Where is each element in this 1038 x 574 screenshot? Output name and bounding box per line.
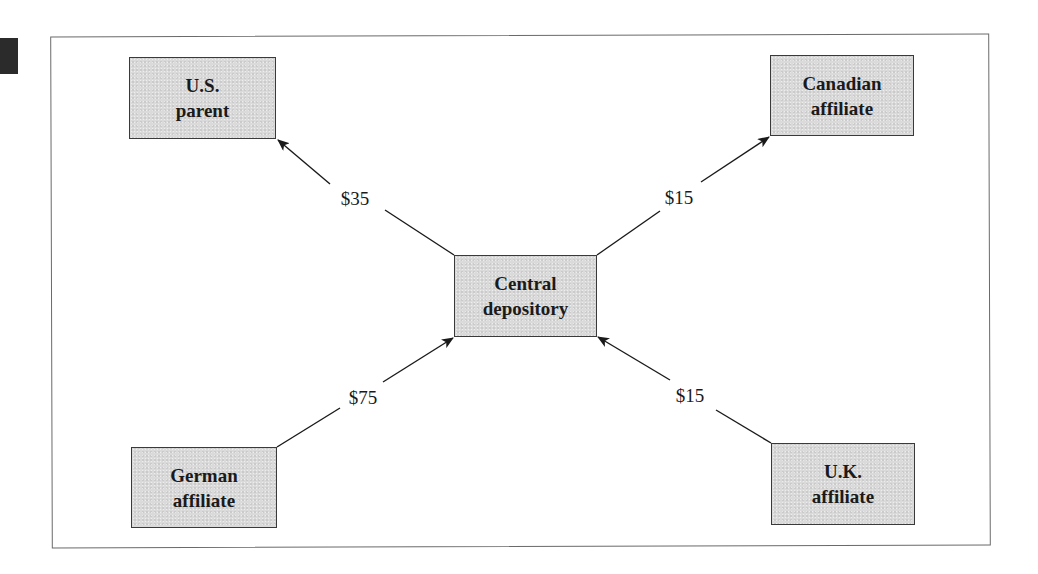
node-us-parent: U.S. parent	[129, 57, 276, 139]
node-label-line: affiliate	[173, 488, 235, 513]
edge-label-us-parent-amount: $35	[337, 188, 374, 210]
node-label-line: affiliate	[811, 96, 873, 121]
edge-label-uk-amount: $15	[672, 385, 709, 407]
node-label-line: Central	[494, 271, 556, 296]
node-german-affiliate: German affiliate	[131, 447, 277, 528]
edge-label-german-amount: $75	[345, 387, 382, 409]
node-uk-affiliate: U.K. affiliate	[771, 443, 915, 525]
node-label-line: U.K.	[824, 459, 862, 484]
node-label-line: affiliate	[812, 484, 874, 509]
node-label-line: Canadian	[802, 71, 881, 96]
node-label-line: depository	[483, 296, 569, 321]
node-label-line: German	[170, 463, 238, 488]
edge-label-canadian-amount: $15	[661, 187, 698, 209]
node-label-line: U.S.	[186, 73, 220, 98]
node-canadian-affiliate: Canadian affiliate	[770, 55, 914, 136]
node-central-depository: Central depository	[454, 255, 597, 337]
node-label-line: parent	[176, 98, 229, 123]
